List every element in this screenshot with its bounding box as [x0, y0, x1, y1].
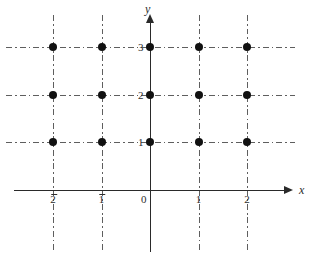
lattice-point	[146, 91, 154, 99]
lattice-point	[49, 138, 57, 146]
x-tick-label: 2	[244, 194, 250, 205]
lattice-point	[49, 91, 57, 99]
lattice-point	[243, 43, 251, 51]
coordinate-grid-figure: x y 21012123	[0, 0, 313, 254]
lattice-point	[49, 43, 57, 51]
x-axis-arrow-icon	[284, 186, 293, 194]
y-tick-label: 2	[138, 90, 144, 101]
x-axis-label: x	[299, 184, 304, 196]
lattice-point	[195, 91, 203, 99]
lattice-point	[146, 43, 154, 51]
lattice-point	[98, 138, 106, 146]
lattice-point	[98, 91, 106, 99]
lattice-point	[146, 138, 154, 146]
y-tick-label: 1	[138, 137, 144, 148]
lattice-point	[98, 43, 106, 51]
x-tick-label: 1	[196, 194, 202, 205]
y-axis-label: y	[145, 3, 150, 15]
negative-sign-overline: 1	[99, 194, 105, 205]
lattice-point	[243, 138, 251, 146]
x-tick-label: 2	[50, 194, 56, 205]
negative-sign-overline: 2	[50, 194, 56, 205]
y-tick-label: 3	[138, 42, 144, 53]
y-axis-line	[150, 20, 151, 252]
lattice-point	[195, 43, 203, 51]
lattice-point	[243, 91, 251, 99]
x-tick-label: 0	[141, 194, 147, 205]
x-tick-label: 1	[99, 194, 105, 205]
lattice-point	[195, 138, 203, 146]
